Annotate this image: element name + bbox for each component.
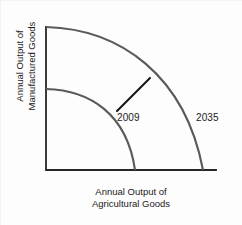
y-axis-title: Annual Output of Manufactured Goods <box>14 1 38 131</box>
growth-arrow <box>117 78 150 111</box>
y-axis-title-line-1: Annual Output of <box>14 1 26 131</box>
x-axis-title-line-1: Annual Output of <box>46 186 216 198</box>
frontier-curve-2035 <box>46 27 203 170</box>
frontier-curve-2009 <box>46 89 135 170</box>
x-axis-title-line-2: Agricultural Goods <box>46 198 216 210</box>
y-axis-title-line-2: Manufactured Goods <box>26 1 38 131</box>
curve-label-2035: 2035 <box>196 112 219 123</box>
curve-label-2009: 2009 <box>117 112 140 123</box>
ppf-diagram: 2009 2035 Annual Output of Agricultural … <box>0 0 242 225</box>
x-axis-title: Annual Output of Agricultural Goods <box>46 186 216 210</box>
